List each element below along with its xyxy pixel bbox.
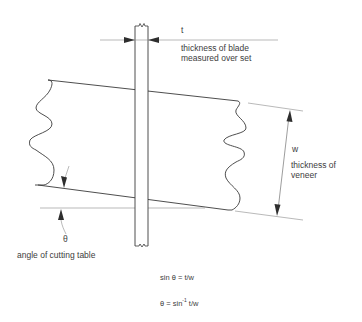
blade-thickness-symbol: t: [181, 25, 183, 35]
theta-symbol: θ: [63, 234, 68, 244]
veneer-right-break-edge: [224, 101, 246, 210]
veneer-thickness-symbol: w: [292, 144, 298, 154]
t-arrow-right-icon: [148, 37, 159, 43]
formula-arcsin-prefix: θ = sin: [160, 299, 182, 308]
w-dimension-line: [278, 116, 289, 210]
w-extension-top: [248, 103, 303, 111]
theta-arrow-top-icon: [61, 176, 67, 188]
theta-leader-top: [65, 166, 69, 178]
veneer-thickness-label-line2: veneer: [291, 170, 317, 180]
theta-leader-bottom: [61, 220, 66, 234]
veneer-bottom-edge: [38, 185, 228, 210]
w-arrow-top-icon: [287, 110, 293, 122]
blade-thickness-label-line1: thickness of blade: [181, 43, 249, 53]
cutting-table-angle-label: angle of cutting table: [17, 250, 95, 260]
veneer-thickness-label-line1: thickness of: [291, 160, 336, 170]
theta-arrow-bottom-icon: [58, 209, 64, 220]
blade-body: [135, 26, 148, 246]
formula-arcsin-suffix: t/w: [187, 299, 199, 308]
veneer-left-break-edge: [29, 80, 54, 185]
formula-theta-arcsin: θ = sin-1 t/w: [160, 296, 198, 308]
w-arrow-bottom-icon: [275, 204, 281, 216]
formula-sin-theta: sin θ = t/w: [160, 273, 194, 282]
w-extension-bottom: [235, 211, 303, 220]
t-arrow-left-icon: [124, 37, 135, 43]
blade-thickness-label-line2: measured over set: [181, 53, 251, 63]
